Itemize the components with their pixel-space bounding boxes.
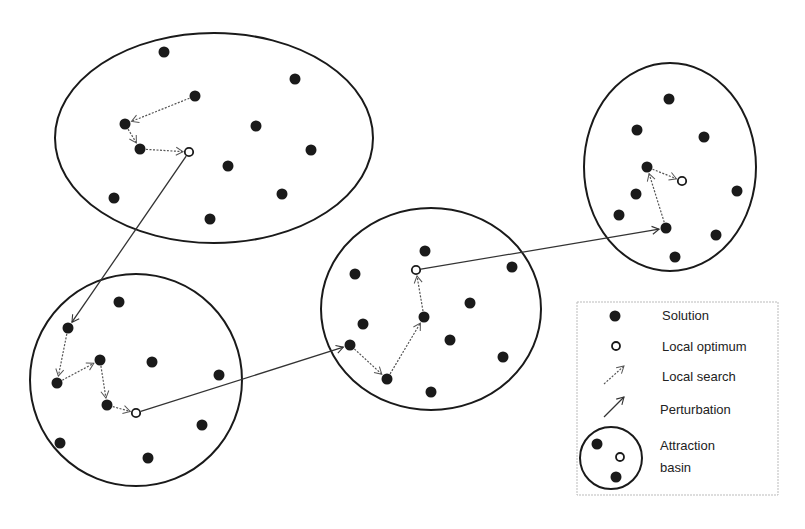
local-optimum-dot (185, 148, 193, 156)
local-search-arrow (649, 174, 664, 223)
local-search-arrow (113, 407, 130, 412)
solution-dot (120, 119, 131, 130)
solution-dot (52, 378, 63, 389)
solution-dot (350, 269, 361, 280)
solution-dot (147, 357, 158, 368)
filled-dot-icon (592, 439, 603, 450)
local-optimum-dot (678, 177, 686, 185)
solution-dot (95, 355, 106, 366)
legend-label-attraction-basin: Attraction (660, 438, 715, 453)
local-search-arrow (131, 98, 189, 121)
solution-dot (159, 47, 170, 58)
basin-1 (55, 33, 373, 243)
solution-dot (382, 374, 393, 385)
filled-dot-icon (610, 311, 621, 322)
basin-2 (30, 274, 242, 486)
open-dot-icon (612, 342, 620, 350)
solution-dot (507, 262, 518, 273)
legend-label-attraction-basin-2: basin (660, 460, 691, 475)
perturbation-arrows (72, 156, 659, 411)
local-search-arrow (58, 334, 66, 376)
solution-dot (114, 297, 125, 308)
local-search-arrow (146, 149, 183, 151)
solution-dot (661, 223, 672, 234)
solution-dot (632, 125, 643, 136)
solution-dot (143, 453, 154, 464)
perturbation-arrow (421, 229, 659, 269)
solution-dot (732, 186, 743, 197)
local-optimum-dot (132, 409, 140, 417)
solution-dot (426, 387, 437, 398)
open-dot-icon (616, 453, 624, 461)
solution-dot (711, 230, 722, 241)
solution-dot (699, 132, 710, 143)
solution-dot (135, 144, 146, 155)
solution-dot (63, 323, 74, 334)
solution-dot (614, 210, 625, 221)
solution-dot (445, 335, 456, 346)
solution-dot (277, 189, 288, 200)
solution-dot (102, 400, 113, 411)
solution-dot (214, 370, 225, 381)
local-search-arrow (101, 366, 106, 398)
solution-dot (223, 161, 234, 172)
solution-dot (306, 145, 317, 156)
solution-dot (345, 340, 356, 351)
solution-dot (670, 252, 681, 263)
solution-dot (631, 189, 642, 200)
local-search-arrow (417, 276, 423, 311)
solution-dot (55, 438, 66, 449)
legend-label-local-optimum: Local optimum (662, 339, 747, 354)
solution-dot (358, 319, 369, 330)
legend-label-local-search: Local search (662, 369, 736, 384)
solution-dot (498, 352, 509, 363)
solution-dot (465, 298, 476, 309)
solution-dot (109, 193, 120, 204)
filled-dot-icon (611, 472, 622, 483)
local-search-arrow (653, 169, 677, 179)
local-optimum-dot (412, 266, 420, 274)
legend: Solution Local optimum Local search Pert… (577, 302, 778, 495)
solution-dot (419, 312, 430, 323)
local-search-arrow (354, 349, 381, 374)
solution-dot (420, 246, 431, 257)
local-search-arrow (390, 323, 420, 374)
solution-dot (205, 214, 216, 225)
perturbation-arrow (141, 347, 344, 411)
solution-dot (664, 94, 675, 105)
diagram-canvas: Solution Local optimum Local search Pert… (0, 0, 805, 529)
solution-dot (197, 420, 208, 431)
solution-dot (642, 162, 653, 173)
legend-label-solution: Solution (662, 308, 709, 323)
solution-dot (290, 74, 301, 85)
local-search-arrow (128, 129, 136, 143)
local-search-arrow (62, 363, 94, 380)
solution-dot (190, 91, 201, 102)
legend-label-perturbation: Perturbation (660, 402, 731, 417)
basin-3 (321, 208, 541, 410)
solution-dot (251, 121, 262, 132)
